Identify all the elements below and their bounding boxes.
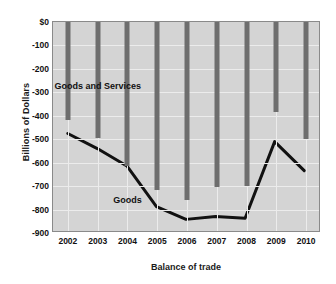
y-axis-tick-label: -600: [32, 158, 49, 168]
y-axis-tick-label: -800: [32, 205, 49, 215]
x-axis-tick-label: 2002: [58, 236, 77, 246]
bar: [65, 22, 70, 120]
chart-figure: Billions of Dollars $0-100-200-300-400-5…: [0, 0, 336, 284]
y-gridline: [53, 210, 319, 211]
x-axis-tick-label: 2005: [148, 236, 167, 246]
x-axis-tick-label: 2006: [178, 236, 197, 246]
series-annotation-label: Goods and Services: [54, 81, 141, 91]
x-axis-tick-label: 2009: [267, 236, 286, 246]
bar: [125, 22, 130, 166]
y-axis-tick-label: -400: [32, 111, 49, 121]
bar: [304, 22, 309, 139]
y-axis-tick-label: -100: [32, 40, 49, 50]
y-axis-tick-label: -300: [32, 87, 49, 97]
y-axis-tick-label: -700: [32, 181, 49, 191]
bar: [274, 22, 279, 112]
x-axis-tick-label: 2007: [207, 236, 226, 246]
bar: [214, 22, 219, 187]
bar: [185, 22, 190, 200]
x-axis-tick-label: 2003: [88, 236, 107, 246]
series-annotation-label: Goods: [113, 195, 142, 205]
y-axis-tick-label: $0: [40, 17, 49, 27]
bar: [155, 22, 160, 190]
y-axis-title: Billions of Dollars: [21, 52, 31, 192]
x-axis-tick-label: 2008: [237, 236, 256, 246]
x-axis-tick-label: 2010: [297, 236, 316, 246]
bar: [95, 22, 100, 138]
y-axis-tick-label: -500: [32, 134, 49, 144]
x-axis-title: Balance of trade: [52, 262, 320, 272]
x-axis-tick-label: 2004: [118, 236, 137, 246]
plot-area: $0-100-200-300-400-500-600-700-800-90020…: [52, 21, 320, 232]
y-axis-tick-label: -200: [32, 64, 49, 74]
bar: [244, 22, 249, 186]
y-axis-tick-label: -900: [32, 228, 49, 238]
